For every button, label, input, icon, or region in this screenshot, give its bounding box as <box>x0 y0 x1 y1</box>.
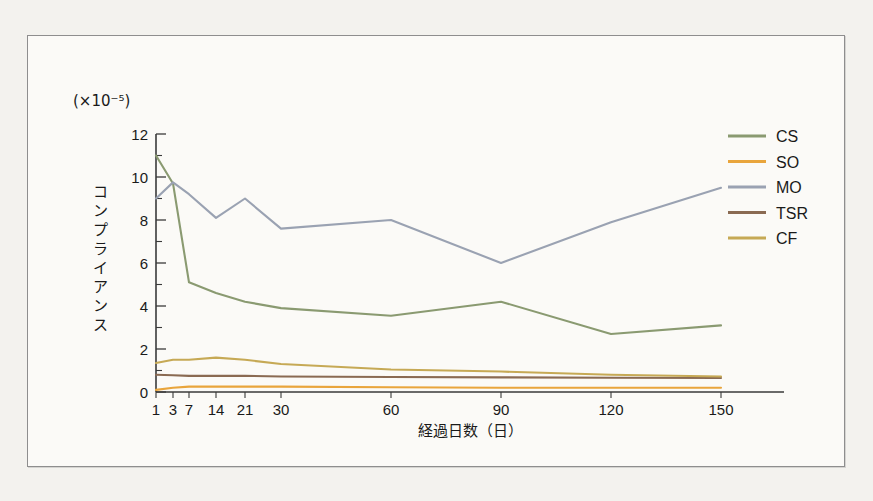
x-tick-label: 7 <box>185 401 193 418</box>
y-axis-title: コンプライアンス <box>93 183 108 334</box>
x-axis-title-label: 経過日数（日） <box>418 422 523 440</box>
y-tick-label: 10 <box>131 169 148 186</box>
x-tick-label: 21 <box>237 401 254 418</box>
y-axis-title-char: ン <box>93 297 108 315</box>
y-axis-title-char: イ <box>93 259 108 277</box>
series-lines <box>156 156 721 390</box>
legend-label-so: SO <box>776 154 799 171</box>
y-tick-label: 12 <box>131 126 148 143</box>
y-tick-label: 2 <box>140 341 148 358</box>
series-line-cs <box>156 156 721 334</box>
y-axis-title-char: ン <box>93 202 108 220</box>
y-axis-title-char: ア <box>93 278 108 296</box>
y-axis-ticks: 024681012 <box>131 126 166 401</box>
y-tick-label: 6 <box>140 255 148 272</box>
x-tick-label: 3 <box>169 401 177 418</box>
x-tick-label: 1 <box>152 401 160 418</box>
x-axis-title: 経過日数（日） <box>418 422 523 440</box>
line-chart: (×10⁻⁵) 024681012 1371421306090120150 CS… <box>28 36 846 468</box>
x-tick-label: 150 <box>708 401 733 418</box>
y-tick-label: 4 <box>140 298 148 315</box>
legend-label-cs: CS <box>776 128 798 145</box>
x-tick-label: 90 <box>493 401 510 418</box>
y-unit-annotation: (×10⁻⁵) <box>73 92 130 110</box>
y-tick-label: 8 <box>140 212 148 229</box>
series-line-mo <box>156 182 721 263</box>
series-line-so <box>156 387 721 390</box>
chart-legend: CSSOMOTSRCF <box>728 128 808 247</box>
x-tick-label: 120 <box>598 401 623 418</box>
series-line-cf <box>156 358 721 377</box>
x-tick-label: 30 <box>273 401 290 418</box>
x-tick-label: 60 <box>383 401 400 418</box>
y-tick-label: 0 <box>140 384 148 401</box>
y-axis-title-char: コ <box>93 183 108 201</box>
y-axis-title-char: ス <box>93 316 108 334</box>
y-axis-title-char: プ <box>93 221 108 239</box>
y-unit-label: (×10⁻⁵) <box>73 92 130 110</box>
figure-frame: (×10⁻⁵) 024681012 1371421306090120150 CS… <box>27 35 845 467</box>
x-axis-ticks: 1371421306090120150 <box>152 392 734 418</box>
chart-axes <box>156 134 784 392</box>
x-tick-label: 14 <box>208 401 225 418</box>
y-axis-title-char: ラ <box>93 240 108 258</box>
legend-label-tsr: TSR <box>776 205 808 222</box>
legend-label-cf: CF <box>776 230 798 247</box>
legend-label-mo: MO <box>776 179 802 196</box>
